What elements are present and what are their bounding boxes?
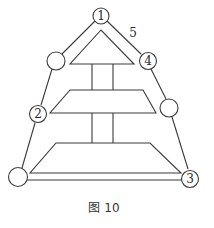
node-upper-left bbox=[47, 52, 65, 70]
node-middle-left-label: 2 bbox=[34, 107, 42, 121]
node-top-label: 1 bbox=[97, 9, 105, 23]
node-middle-right bbox=[160, 99, 178, 117]
node-upper-right: 4 bbox=[140, 53, 157, 70]
node-top: 1 bbox=[93, 8, 109, 24]
edge-label: 5 bbox=[129, 26, 137, 40]
node-upper-right-label: 4 bbox=[144, 54, 152, 68]
node-bottom-right-label: 3 bbox=[186, 172, 194, 186]
node-bottom-right: 3 bbox=[182, 171, 199, 188]
bottom-trapezoid bbox=[30, 143, 181, 173]
edge-upper-right-middle-right bbox=[151, 69, 166, 99]
diagram-canvas: 1 4 2 3 5 图 10 bbox=[0, 0, 214, 228]
edge-upper-left-middle-left bbox=[41, 69, 52, 105]
node-bottom-left bbox=[9, 168, 28, 187]
edge-middle-right-bottom-right bbox=[172, 117, 188, 169]
edge-middle-left-bottom-left bbox=[22, 123, 35, 168]
top-triangle bbox=[70, 30, 134, 64]
edge-top-upper-left bbox=[62, 21, 95, 54]
middle-trapezoid bbox=[50, 90, 156, 113]
figure-caption: 图 10 bbox=[88, 201, 119, 215]
node-middle-left: 2 bbox=[30, 106, 47, 123]
